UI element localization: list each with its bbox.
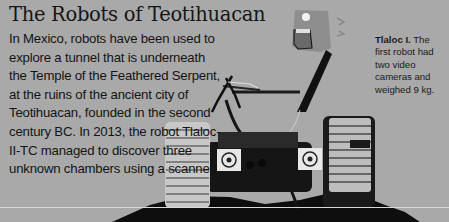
article-body: In Mexico, robots have been used to expl… bbox=[9, 30, 224, 179]
robot-arm bbox=[297, 50, 332, 112]
right-tread bbox=[323, 116, 375, 208]
camera-head bbox=[292, 10, 344, 52]
photo-caption: Tlaloc I. The first robot had two video … bbox=[375, 34, 447, 96]
emblem-sticker-right bbox=[298, 148, 322, 170]
caption-label: Tlaloc I. bbox=[375, 34, 411, 45]
article-title: The Robots of Teotihuacan bbox=[9, 3, 265, 26]
horizontal-rule bbox=[0, 207, 449, 208]
